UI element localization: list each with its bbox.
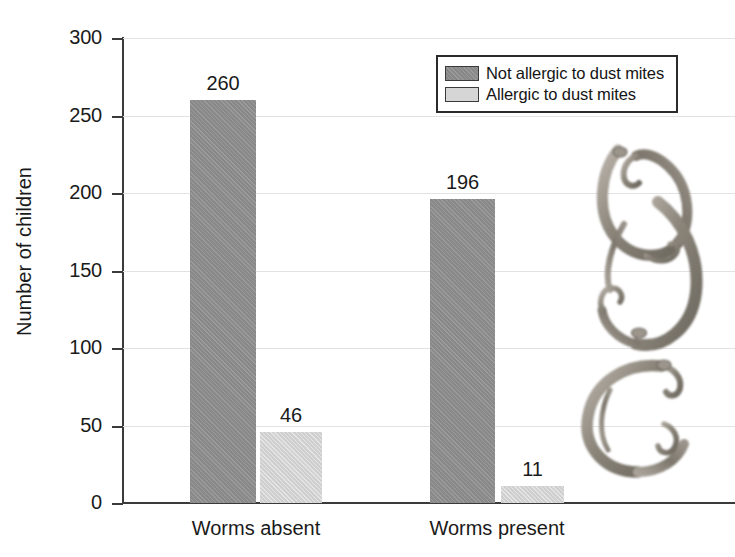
y-axis-title: Number of children — [13, 122, 36, 382]
bar-chart-figure: Number of children 300250200150100500 26… — [0, 0, 735, 557]
y-axis-tick — [112, 193, 123, 195]
legend: Not allergic to dust mites Allergic to d… — [436, 55, 678, 113]
y-axis-tick-label: 0 — [42, 491, 102, 514]
bar-value-label: 11 — [481, 458, 584, 481]
bar — [190, 100, 256, 503]
x-axis-category-label: Worms present — [387, 517, 607, 540]
legend-item-not-allergic: Not allergic to dust mites — [445, 63, 669, 83]
bar — [501, 486, 564, 503]
bar-value-label: 46 — [240, 404, 342, 427]
y-axis-tick-label: 200 — [42, 181, 102, 204]
y-axis-tick — [112, 38, 123, 40]
y-axis-tick — [112, 503, 123, 505]
y-axis-tick-label: 250 — [42, 104, 102, 127]
y-axis-tick — [112, 348, 123, 350]
y-axis-tick-label: 100 — [42, 336, 102, 359]
y-axis-tick-label: 150 — [42, 259, 102, 282]
legend-swatch-light-icon — [445, 87, 479, 102]
legend-swatch-dark-icon — [445, 66, 479, 81]
y-axis-tick — [112, 271, 123, 273]
gridline — [123, 38, 735, 39]
y-axis-tick — [112, 116, 123, 118]
bar-value-label: 196 — [410, 171, 515, 194]
legend-item-allergic: Allergic to dust mites — [445, 84, 669, 104]
bar-value-label: 260 — [170, 72, 276, 95]
y-axis-tick — [112, 426, 123, 428]
y-axis-tick-label: 300 — [42, 26, 102, 49]
bar — [260, 432, 322, 503]
y-axis-tick-label: 50 — [42, 414, 102, 437]
x-axis-category-label: Worms absent — [146, 517, 366, 540]
legend-label-allergic: Allergic to dust mites — [486, 85, 636, 104]
legend-label-not-allergic: Not allergic to dust mites — [486, 64, 664, 83]
